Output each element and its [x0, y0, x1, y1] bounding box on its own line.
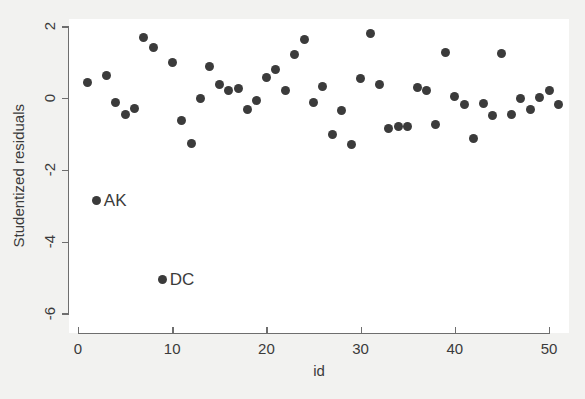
data-point — [290, 50, 299, 59]
x-tick-label: 10 — [164, 341, 181, 356]
point-label-ak: AK — [104, 192, 127, 209]
data-point — [554, 100, 563, 109]
plot-area: AKDC — [69, 19, 569, 333]
data-point — [337, 106, 346, 115]
data-point — [177, 116, 186, 125]
data-point — [366, 29, 375, 38]
data-point — [168, 58, 177, 67]
x-axis-line — [78, 333, 549, 334]
x-tick-mark — [455, 327, 456, 334]
data-point — [224, 86, 233, 95]
data-point — [403, 122, 412, 131]
x-tick-label: 0 — [74, 341, 82, 356]
y-tick-mark — [62, 242, 69, 243]
data-point — [479, 99, 488, 108]
y-tick-label: -6 — [42, 307, 57, 320]
y-tick-mark — [62, 313, 69, 314]
data-point — [121, 110, 130, 119]
data-point — [300, 35, 309, 44]
data-point — [507, 110, 516, 119]
data-point — [281, 86, 290, 95]
data-point — [469, 134, 478, 143]
data-point — [262, 73, 271, 82]
point-label-dc: DC — [170, 271, 195, 288]
y-tick-mark — [62, 98, 69, 99]
scatter-plot-figure: AKDC 20-2-4-6 01020304050 Studentized re… — [0, 0, 585, 399]
x-axis-title-text: id — [313, 362, 325, 379]
y-tick-label: -4 — [42, 235, 57, 248]
data-point — [149, 43, 158, 52]
y-tick-label: 2 — [42, 22, 57, 30]
x-tick-mark — [266, 327, 267, 334]
data-point — [413, 83, 422, 92]
x-tick-mark — [78, 327, 79, 334]
data-point — [497, 49, 506, 58]
data-point — [347, 140, 356, 149]
x-tick-mark — [361, 327, 362, 334]
data-point — [318, 82, 327, 91]
data-point — [309, 98, 318, 107]
data-point — [450, 92, 459, 101]
data-point — [205, 62, 214, 71]
data-point — [328, 130, 337, 139]
data-point — [441, 48, 450, 57]
x-tick-mark — [172, 327, 173, 334]
data-point — [139, 33, 148, 42]
data-point — [394, 122, 403, 131]
data-point — [234, 84, 243, 93]
data-point — [243, 105, 252, 114]
x-tick-mark — [549, 327, 550, 334]
data-point — [545, 86, 554, 95]
data-point — [422, 86, 431, 95]
data-point — [187, 139, 196, 148]
data-point — [111, 98, 120, 107]
y-axis-title-text: Studentized residuals — [10, 104, 27, 247]
data-point — [431, 120, 440, 129]
y-tick-mark — [62, 170, 69, 171]
y-tick-mark — [62, 26, 69, 27]
data-point — [83, 78, 92, 87]
x-tick-label: 40 — [446, 341, 463, 356]
data-point — [535, 93, 544, 102]
data-point — [460, 100, 469, 109]
data-point — [516, 94, 525, 103]
data-point — [196, 94, 205, 103]
data-point — [375, 80, 384, 89]
data-point — [488, 111, 497, 120]
x-tick-label: 30 — [352, 341, 369, 356]
x-tick-label: 50 — [541, 341, 558, 356]
y-tick-label: 0 — [42, 94, 57, 102]
x-axis-title: id — [69, 362, 569, 379]
data-point — [356, 74, 365, 83]
data-point — [252, 96, 261, 105]
data-point — [215, 80, 224, 89]
data-point — [384, 124, 393, 133]
data-point — [102, 71, 111, 80]
data-point — [158, 275, 167, 284]
data-point — [92, 196, 101, 205]
x-tick-label: 20 — [258, 341, 275, 356]
data-point — [130, 104, 139, 113]
y-tick-label: -2 — [42, 163, 57, 176]
y-axis-title: Studentized residuals — [8, 19, 28, 333]
data-point — [526, 105, 535, 114]
data-point — [271, 65, 280, 74]
